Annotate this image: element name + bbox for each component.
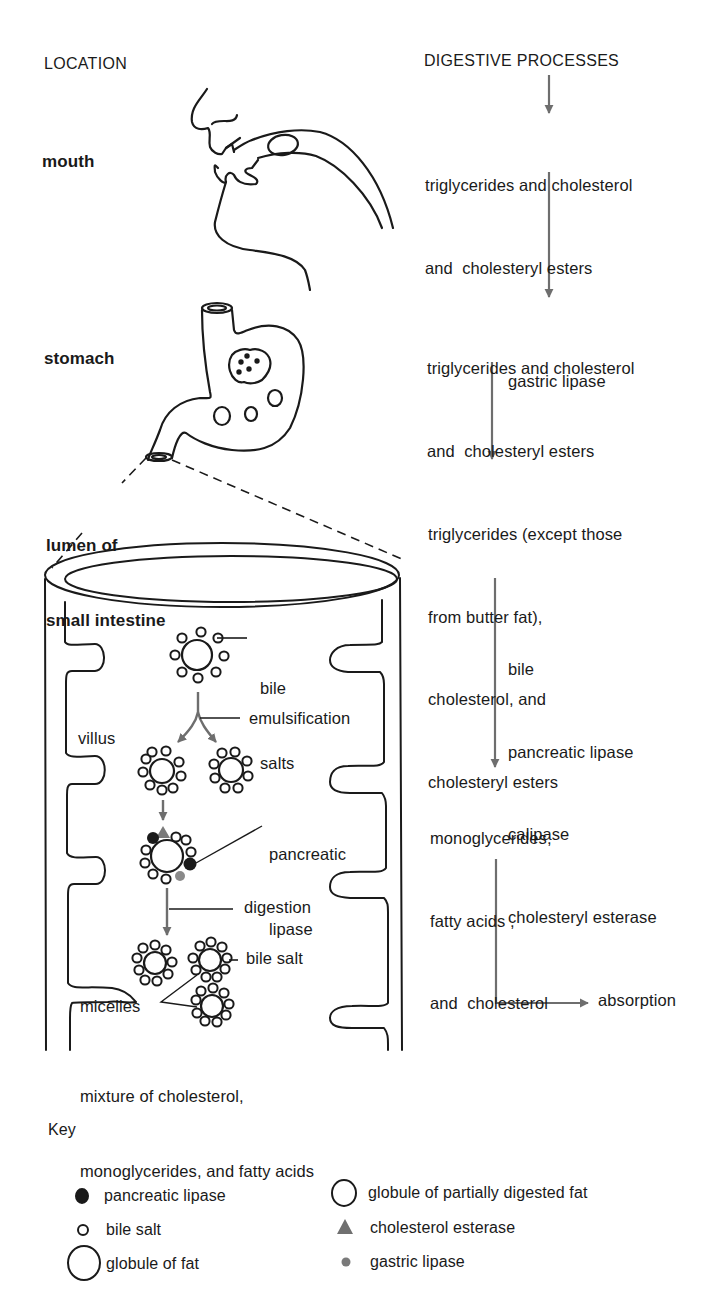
key-item-pancreatic-lipase: pancreatic lipase xyxy=(104,1182,226,1209)
pancreatic-lipase-pointer xyxy=(196,826,262,863)
label-micelles: micelles xyxy=(80,994,140,1019)
stomach-icon xyxy=(146,303,304,461)
key-item-gastric-lipase: gastric lipase xyxy=(370,1248,465,1275)
emulsification-arrows xyxy=(178,692,216,742)
micelle-icon xyxy=(132,940,176,985)
label-emulsification: emulsification xyxy=(249,706,350,731)
digestion-diagram: LOCATION DIGESTIVE PROCESSES mouth stoma… xyxy=(0,0,727,1292)
key-item-cholesterol-esterase: cholesterol esterase xyxy=(370,1214,515,1241)
key-title: Key xyxy=(48,1116,76,1143)
location-mouth: mouth xyxy=(42,149,94,174)
location-column-header: LOCATION xyxy=(44,50,127,77)
key-item-bile-salt: bile salt xyxy=(106,1216,161,1243)
emulsified-globule-right-icon xyxy=(209,747,252,792)
key-item-globule-of-fat: globule of fat xyxy=(106,1250,199,1277)
globule-with-lipase-icon xyxy=(140,826,196,884)
label-bile-salt: bile salt xyxy=(246,946,303,971)
label-digestion: digestion xyxy=(244,895,311,920)
emulsified-globule-left-icon xyxy=(138,746,185,794)
key-item-partially-digested-fat: globule of partially digested fat xyxy=(368,1179,587,1206)
head-profile-icon xyxy=(192,89,393,290)
label-villus: villus xyxy=(78,726,115,751)
process-absorption: absorption xyxy=(598,987,676,1015)
gastric-lipase-key-icon xyxy=(342,1258,351,1267)
cholesterol-esterase-key-icon xyxy=(337,1219,353,1234)
location-intestine: lumen of small intestine xyxy=(46,483,166,683)
partially-digested-fat-key-icon xyxy=(332,1180,356,1206)
micelle-icon xyxy=(191,983,233,1026)
fat-globule-with-bile-salts-icon xyxy=(170,627,228,682)
enzyme-gastric-lipase: gastric lipase xyxy=(508,368,606,396)
process-step-4: monoglycerides, fatty acids , and choles… xyxy=(430,770,552,1073)
micelle-icon xyxy=(188,937,231,981)
processes-column-header: DIGESTIVE PROCESSES xyxy=(424,47,619,74)
globule-of-fat-key-icon xyxy=(68,1246,100,1280)
location-stomach: stomach xyxy=(44,346,115,371)
